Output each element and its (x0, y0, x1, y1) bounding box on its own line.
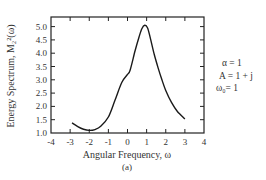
x-tick-label: -1 (105, 137, 113, 147)
y-tick-label: 3.0 (36, 75, 48, 85)
x-tick-label: -2 (86, 137, 94, 147)
y-axis-title: Energy Spectrum, M₂²(ω) (5, 24, 17, 127)
x-tick-label: 4 (202, 137, 207, 147)
y-tick-label: 3.5 (36, 62, 48, 72)
annotation-amplitude: A = 1 + j (219, 71, 253, 81)
y-tick-label: 1.0 (36, 128, 48, 138)
y-tick-label: 2.5 (36, 88, 48, 98)
annotation-omega0: ω₀= 1 (216, 83, 238, 93)
y-tick-label: 5.0 (36, 22, 48, 32)
y-tick-label: 1.5 (36, 115, 48, 125)
x-tick-label: 0 (125, 137, 130, 147)
y-tick-label: 4.0 (36, 48, 48, 58)
x-tick-label: -4 (47, 137, 55, 147)
x-tick-label: 2 (164, 137, 169, 147)
x-tick-label: -3 (66, 137, 74, 147)
x-axis-title: Angular Frequency, ω (83, 149, 172, 160)
annotation-alpha: α = 1 (222, 58, 242, 68)
energy-spectrum-curve (72, 25, 185, 130)
figure-caption: (a) (122, 162, 132, 172)
x-tick-label: 1 (144, 137, 149, 147)
y-tick-label: 2.0 (36, 101, 48, 111)
y-tick-label: 4.5 (36, 35, 48, 45)
x-tick-label: 3 (183, 137, 188, 147)
chart-root: -4-3-2-1012341.01.52.02.53.03.54.04.55.0… (0, 0, 266, 180)
